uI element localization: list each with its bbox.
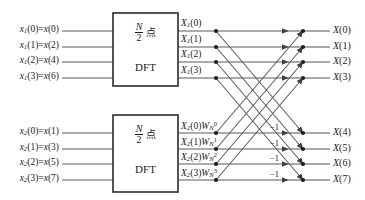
upper-input-label-2: x1(2)=x(4) xyxy=(0,55,59,65)
summing-node-5 xyxy=(301,147,305,151)
summing-node-0 xyxy=(301,29,305,33)
fft-butterfly-diagram: N 2 点 DFT N 2 点 DFT x1(0)=x(0)x1(1)=x(2)… xyxy=(0,0,365,200)
lower-dft-box-text: N 2 点 DFT xyxy=(113,124,178,175)
upper-mid-label-0: X1(0) xyxy=(181,18,201,28)
output-label-0: X(0) xyxy=(333,24,351,35)
lower-input-label-1: x2(1)=x(3) xyxy=(0,142,59,152)
lower-mid-label-1: X2(1)WN1 xyxy=(181,136,217,147)
output-label-6: X(6) xyxy=(333,157,351,168)
summing-node-6 xyxy=(301,162,305,166)
lower-input-label-3: x2(3)=x(7) xyxy=(0,173,59,183)
summing-node-1 xyxy=(301,45,305,49)
upper-fraction-denominator: 2 xyxy=(135,33,144,43)
summing-node-2 xyxy=(301,60,305,64)
branch-node-4 xyxy=(214,131,218,135)
upper-fraction: N 2 xyxy=(135,22,144,43)
output-label-2: X(2) xyxy=(333,55,351,66)
branch-node-3 xyxy=(214,76,218,80)
upper-mid-label-3: X1(3) xyxy=(181,65,201,75)
branch-node-2 xyxy=(214,60,218,64)
output-label-1: X(1) xyxy=(333,40,351,51)
upper-mid-label-2: X1(2) xyxy=(181,49,201,59)
output-label-7: X(7) xyxy=(333,173,351,184)
minus-one-label-1: −1 xyxy=(270,138,279,148)
output-label-5: X(5) xyxy=(333,142,351,153)
lower-input-label-2: x2(2)=x(5) xyxy=(0,157,59,167)
upper-input-label-1: x1(1)=x(2) xyxy=(0,40,59,50)
lower-mid-label-3: X2(3)WN3 xyxy=(181,167,217,178)
lower-input-label-0: x2(0)=x(1) xyxy=(0,126,59,136)
summing-node-7 xyxy=(301,178,305,182)
summing-node-4 xyxy=(301,131,305,135)
lower-unit-label: 点 xyxy=(146,130,156,140)
upper-input-label-3: x1(3)=x(6) xyxy=(0,71,59,81)
branch-node-0 xyxy=(214,29,218,33)
output-label-3: X(3) xyxy=(333,71,351,82)
minus-one-label-0: −1 xyxy=(270,122,279,132)
lower-fraction-denominator: 2 xyxy=(135,135,144,145)
branch-node-7 xyxy=(214,178,218,182)
branch-node-1 xyxy=(214,45,218,49)
lower-dft-label: DFT xyxy=(113,163,178,175)
upper-input-label-0: x1(0)=x(0) xyxy=(0,24,59,34)
lower-mid-label-0: X2(0)WN0 xyxy=(181,120,217,131)
upper-dft-box-text: N 2 点 DFT xyxy=(113,22,178,73)
minus-one-label-3: −1 xyxy=(270,169,279,179)
summing-node-3 xyxy=(301,76,305,80)
lower-mid-label-2: X2(2)WN2 xyxy=(181,151,217,162)
output-label-4: X(4) xyxy=(333,126,351,137)
upper-dft-label: DFT xyxy=(113,61,178,73)
upper-mid-label-1: X1(1) xyxy=(181,34,201,44)
upper-unit-label: 点 xyxy=(146,28,156,38)
branch-node-6 xyxy=(214,162,218,166)
minus-one-label-2: −1 xyxy=(270,153,279,163)
lower-fraction: N 2 xyxy=(135,124,144,145)
